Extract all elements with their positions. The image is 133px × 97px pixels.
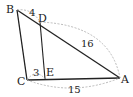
segment-ca	[27, 78, 120, 80]
label-e: E	[46, 66, 54, 79]
measure-ca: 15	[68, 84, 81, 95]
triangle-diagram: B D C E A 4 16 3 15	[0, 0, 133, 97]
label-d: D	[38, 12, 47, 25]
measure-bd: 4	[29, 7, 35, 18]
label-b: B	[6, 3, 14, 16]
label-a: A	[120, 73, 130, 86]
segment-bc	[17, 10, 27, 80]
measure-da: 16	[81, 38, 94, 49]
measure-ce: 3	[33, 67, 39, 78]
label-c: C	[17, 75, 25, 88]
segment-de	[40, 22, 45, 79]
